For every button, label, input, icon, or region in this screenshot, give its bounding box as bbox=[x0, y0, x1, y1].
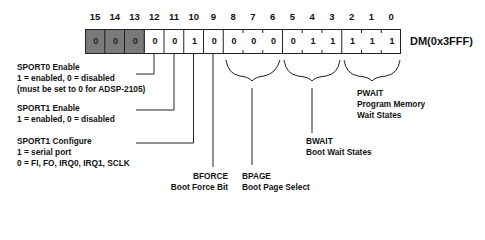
sport0-desc-1: 1 = enabled, 0 = disabled bbox=[17, 73, 145, 84]
pwait-label: PWAIT Program Memory Wait States bbox=[357, 88, 425, 121]
pwait-desc-1: Program Memory bbox=[357, 99, 425, 110]
sport1-config-title: SPORT1 Configure bbox=[17, 136, 130, 147]
sport1-enable-title: SPORT1 Enable bbox=[17, 103, 115, 114]
sport1-enable-desc: 1 = enabled, 0 = disabled bbox=[17, 114, 115, 125]
sport0-title: SPORT0 Enable bbox=[17, 62, 145, 73]
sport0-desc-2: (must be set to 0 for ADSP-2105) bbox=[17, 84, 145, 95]
bwait-desc: Boot Wait States bbox=[306, 147, 372, 158]
sport1-enable-label: SPORT1 Enable 1 = enabled, 0 = disabled bbox=[17, 103, 115, 125]
sport0-label: SPORT0 Enable 1 = enabled, 0 = disabled … bbox=[17, 62, 145, 95]
bforce-desc: Boot Force Bit bbox=[166, 182, 228, 193]
bpage-label: BPAGE Boot Page Select bbox=[242, 171, 310, 193]
sport1-config-desc-1: 1 = serial port bbox=[17, 147, 130, 158]
bforce-label: BFORCE Boot Force Bit bbox=[166, 171, 228, 193]
bpage-title: BPAGE bbox=[242, 171, 310, 182]
sport1-config-desc-2: 0 = FI, FO, IRQ0, IRQ1, SCLK bbox=[17, 158, 130, 169]
bforce-title: BFORCE bbox=[166, 171, 228, 182]
bwait-label: BWAIT Boot Wait States bbox=[306, 136, 372, 158]
pwait-title: PWAIT bbox=[357, 88, 425, 99]
sport1-config-label: SPORT1 Configure 1 = serial port 0 = FI,… bbox=[17, 136, 130, 169]
bpage-desc: Boot Page Select bbox=[242, 182, 310, 193]
pwait-desc-2: Wait States bbox=[357, 110, 425, 121]
bwait-title: BWAIT bbox=[306, 136, 372, 147]
